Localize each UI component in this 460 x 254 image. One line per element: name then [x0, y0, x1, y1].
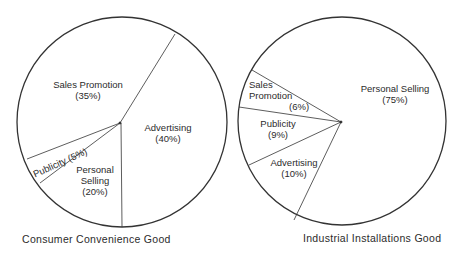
slice-name-line2: Promotion	[249, 90, 309, 101]
slice-percent: (9%)	[255, 129, 301, 140]
slice-name-line1: Personal	[70, 164, 120, 175]
slice-name: Advertising	[138, 122, 198, 133]
slice-name: Publicity	[255, 118, 301, 129]
pie-hub	[119, 122, 121, 124]
pie-hub	[340, 121, 342, 123]
slice-divider-advertising-sales-promotion	[120, 34, 175, 123]
slice-label-personal-selling: Personal Selling (20%)	[70, 164, 120, 197]
slice-percent: (35%)	[48, 90, 128, 101]
slice-label-publicity: Publicity (9%)	[255, 118, 301, 140]
slice-percent: (6%)	[249, 101, 309, 112]
slice-name: Sales Promotion	[48, 79, 128, 90]
chart-title-industrial-installations: Industrial Installations Good	[303, 232, 441, 244]
pie-charts-graphic	[0, 0, 460, 254]
slice-label-sales-promotion: Sales Promotion (35%)	[48, 79, 128, 101]
slice-label-advertising: Advertising (40%)	[138, 122, 198, 144]
slice-label-sales-promotion: Sales Promotion (6%)	[249, 79, 309, 112]
slice-divider-personal-selling-advertising	[121, 123, 122, 227]
slice-name-line1: Sales	[249, 79, 309, 90]
slice-percent: (40%)	[138, 133, 198, 144]
slice-label-advertising: Advertising (10%)	[264, 157, 324, 179]
slice-name: Personal Selling	[352, 83, 438, 94]
slice-percent: (20%)	[70, 186, 120, 197]
slice-percent: (10%)	[264, 168, 324, 179]
chart-title-consumer-convenience: Consumer Convenience Good	[22, 233, 171, 245]
slice-percent: (75%)	[352, 94, 438, 105]
slice-name-line2: Selling	[70, 175, 120, 186]
slice-name: Advertising	[264, 157, 324, 168]
slice-label-personal-selling: Personal Selling (75%)	[352, 83, 438, 105]
